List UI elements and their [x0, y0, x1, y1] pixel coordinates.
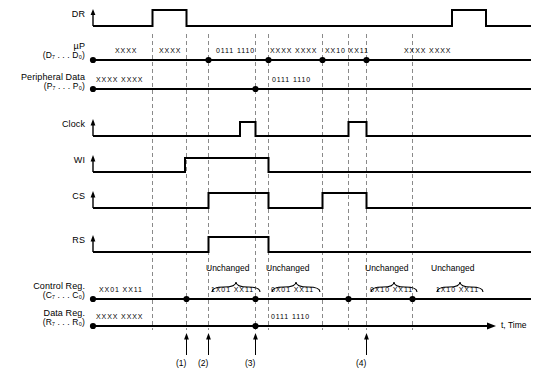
bus-value-data-reg-0: XXXX XXXX	[96, 313, 143, 320]
signal-label-control-reg: Control Reg. (C₇ . . . C₀)	[0, 281, 85, 301]
signal-label-up: µP (D₇ . . . D₀)	[0, 41, 85, 61]
bus-value-up-0: XXXX	[115, 47, 137, 54]
signal-label-dr: DR	[0, 9, 85, 19]
signal-label-clock-text: Clock	[62, 119, 85, 129]
event-marker-4: (4)	[356, 358, 366, 368]
axis-arrow-dr	[91, 9, 96, 26]
time-axis-label: t, Time	[501, 320, 527, 330]
bus-value-control-reg-1: 1X01 XX11	[211, 286, 254, 293]
bus-value-periph-0: XXXX XXXX	[96, 76, 143, 83]
signal-label-cs: CS	[0, 191, 85, 201]
signal-label-cs-text: CS	[72, 191, 85, 201]
event-marker-2: (2)	[198, 358, 208, 368]
signal-label-peripheral-data-sub: (P₇ . . . P₀)	[0, 82, 85, 92]
event-marker-arrowheads	[184, 333, 369, 340]
signal-label-data-reg-sub: (R₇ . . . R₀)	[0, 318, 85, 328]
unchanged-label-3: Unchanged	[431, 263, 474, 273]
signal-label-dr-text: DR	[72, 9, 85, 19]
event-marker-1: (1)	[176, 358, 186, 368]
unchanged-label-2: Unchanged	[365, 263, 408, 273]
trace-cs	[93, 193, 531, 208]
signal-label-control-reg-sub: (C₇ . . . C₀)	[0, 291, 85, 301]
bus-value-data-reg-1: 0111 1110	[271, 313, 310, 320]
event-marker-3: (3)	[245, 358, 255, 368]
bus-value-periph-1: 0111 1110	[272, 76, 311, 83]
trace-dr	[93, 10, 531, 26]
signal-label-wi: WI	[0, 155, 85, 165]
event-marker-arrows	[187, 337, 367, 355]
signal-label-clock: Clock	[0, 119, 85, 129]
trace-wi	[93, 158, 531, 172]
bus-value-up-3: XXXX XXXX	[270, 47, 317, 54]
unchanged-label-0: Unchanged	[206, 263, 249, 273]
signal-label-peripheral-data: Peripheral Data (P₇ . . . P₀)	[0, 72, 85, 92]
axis-arrow-rs	[91, 235, 96, 252]
bus-value-control-reg-3: 0X10 XX11	[370, 286, 413, 293]
signal-label-data-reg: Data Reg. (R₇ . . . R₀)	[0, 308, 85, 328]
trace-rs	[93, 237, 531, 252]
trace-clock	[93, 122, 531, 136]
bus-value-up-1: XXXX	[159, 47, 181, 54]
bus-value-up-4: XX10 XX11	[325, 47, 369, 54]
bus-value-up-2: 0111 1110	[216, 47, 255, 54]
timing-diagram-figure: DR µP (D₇ . . . D₀) Peripheral Data (P₇ …	[0, 0, 549, 382]
signal-label-rs: RS	[0, 235, 85, 245]
time-axis-arrow-icon	[487, 322, 496, 329]
signal-label-up-sub: (D₇ . . . D₀)	[0, 51, 85, 61]
axis-arrow-clock	[91, 119, 96, 136]
unchanged-label-1: Unchanged	[266, 263, 309, 273]
axis-arrow-wi	[91, 155, 96, 172]
bus-value-up-5: XXXX XXXX	[404, 47, 451, 54]
signal-label-rs-text: RS	[72, 235, 85, 245]
bus-value-control-reg-0: XX01 XX11	[99, 286, 143, 293]
signal-label-wi-text: WI	[74, 155, 85, 165]
axis-arrow-cs	[91, 191, 96, 208]
bus-value-control-reg-4: 1X10 XX11	[436, 286, 479, 293]
bus-value-control-reg-2: 0X01 XX11	[271, 286, 314, 293]
